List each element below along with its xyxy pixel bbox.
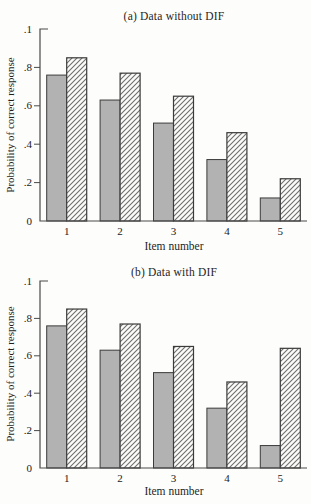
chart-a-y-axis-label: Probability of correct response bbox=[4, 57, 16, 192]
x-tick-label-1: 1 bbox=[64, 225, 70, 237]
y-tick-label-.8: .8 bbox=[24, 312, 33, 324]
bar-hatched-item-3 bbox=[174, 346, 194, 468]
y-tick-label-.4: .4 bbox=[24, 138, 33, 150]
x-tick-label-1: 1 bbox=[64, 472, 70, 484]
y-tick-label-.6: .6 bbox=[24, 349, 33, 361]
chart-panel-a: 12345.1.8.6.4.20 (a) Data without DIF Pr… bbox=[0, 0, 311, 252]
x-tick-label-2: 2 bbox=[117, 225, 123, 237]
chart-panel-b: 12345.1.8.6.4.20 (b) Data with DIF Proba… bbox=[0, 252, 311, 504]
x-tick-label-4: 4 bbox=[224, 225, 230, 237]
bar-hatched-item-2 bbox=[120, 73, 140, 221]
bar-hatched-item-5 bbox=[280, 179, 300, 221]
bar-solid-item-2 bbox=[100, 100, 120, 221]
x-tick-label-3: 3 bbox=[171, 225, 177, 237]
bar-plot-b: 12345.1.8.6.4.20 bbox=[0, 252, 311, 504]
y-tick-label-.8: .8 bbox=[24, 61, 33, 73]
y-tick-label-.4: .4 bbox=[24, 387, 33, 399]
x-tick-label-5: 5 bbox=[278, 472, 284, 484]
x-tick-label-2: 2 bbox=[117, 472, 123, 484]
chart-a-x-axis-label: Item number bbox=[40, 240, 308, 252]
bar-hatched-item-1 bbox=[67, 58, 87, 221]
y-tick-label-.1: .1 bbox=[24, 23, 32, 35]
bar-solid-item-2 bbox=[100, 350, 120, 468]
x-tick-label-3: 3 bbox=[171, 472, 177, 484]
y-tick-label-.2: .2 bbox=[24, 424, 32, 436]
bar-solid-item-5 bbox=[260, 198, 280, 221]
x-tick-label-4: 4 bbox=[224, 472, 230, 484]
dif-bar-chart-figure: 12345.1.8.6.4.20 (a) Data without DIF Pr… bbox=[0, 0, 311, 504]
bar-hatched-item-4 bbox=[227, 133, 247, 221]
x-tick-label-5: 5 bbox=[278, 225, 284, 237]
bar-hatched-item-3 bbox=[174, 96, 194, 221]
bar-solid-item-5 bbox=[260, 446, 280, 468]
chart-b-x-axis-label: Item number bbox=[40, 485, 308, 497]
bar-hatched-item-5 bbox=[280, 348, 300, 468]
y-tick-label-.1: .1 bbox=[24, 275, 32, 287]
bar-plot-a: 12345.1.8.6.4.20 bbox=[0, 0, 311, 252]
bar-solid-item-4 bbox=[207, 408, 227, 468]
bar-solid-item-1 bbox=[47, 326, 67, 468]
chart-b-y-axis-label: Probability of correct response bbox=[4, 306, 16, 441]
bar-hatched-item-1 bbox=[67, 309, 87, 468]
y-tick-label-0: 0 bbox=[27, 462, 33, 474]
y-tick-label-0: 0 bbox=[27, 215, 33, 227]
bar-solid-item-4 bbox=[207, 160, 227, 221]
bar-solid-item-1 bbox=[47, 75, 67, 221]
bar-solid-item-3 bbox=[154, 373, 174, 468]
bar-hatched-item-4 bbox=[227, 382, 247, 468]
bar-solid-item-3 bbox=[154, 123, 174, 221]
chart-b-title: (b) Data with DIF bbox=[40, 266, 308, 278]
y-tick-label-.6: .6 bbox=[24, 99, 33, 111]
chart-a-title: (a) Data without DIF bbox=[40, 10, 308, 22]
y-tick-label-.2: .2 bbox=[24, 176, 32, 188]
bar-hatched-item-2 bbox=[120, 324, 140, 468]
